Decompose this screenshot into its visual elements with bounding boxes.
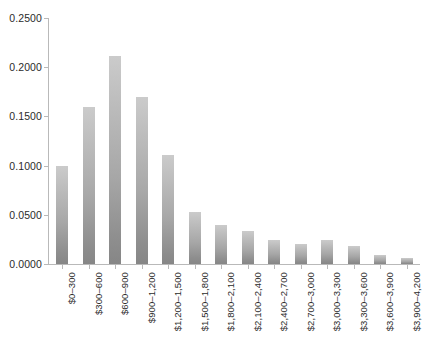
x-axis-tick-label: $3,900–4,200 — [411, 272, 422, 331]
x-axis-tick-mark — [168, 265, 169, 269]
bar-chart: 0.00000.05000.10000.15000.20000.2500 $0–… — [0, 0, 434, 340]
bar — [162, 155, 174, 264]
x-axis-tick-mark — [301, 265, 302, 269]
bar — [295, 244, 307, 264]
x-axis-tick-mark — [62, 265, 63, 269]
bar — [321, 240, 333, 264]
bar — [189, 212, 201, 264]
bar — [56, 166, 68, 264]
bar — [83, 107, 95, 264]
y-axis-tick-mark — [44, 264, 49, 265]
x-axis-tick-mark — [142, 265, 143, 269]
bar — [348, 246, 360, 264]
bar — [268, 240, 280, 264]
x-axis: $0–300$300–600$600–900$900–1,200$1,200–1… — [0, 264, 434, 340]
plot-area — [49, 18, 420, 264]
x-axis-tick-label: $3,600–3,900 — [384, 272, 395, 331]
x-axis-tick-mark — [354, 265, 355, 269]
x-axis-tick-mark — [89, 265, 90, 269]
x-axis-tick-mark — [115, 265, 116, 269]
x-axis-tick-label: $3,300–3,600 — [358, 272, 369, 331]
x-axis-tick-label: $600–900 — [119, 272, 130, 315]
x-axis-tick-label: $1,200–1,500 — [172, 272, 183, 331]
x-axis-tick-mark — [407, 265, 408, 269]
x-axis-tick-mark — [274, 265, 275, 269]
y-axis-tick-label: 0.0500 — [0, 210, 42, 220]
bar — [136, 97, 148, 264]
y-axis-tick-mark — [44, 18, 49, 19]
x-axis-tick-label: $900–1,200 — [146, 272, 157, 323]
x-axis-tick-label: $2,700–3,000 — [305, 272, 316, 331]
y-axis-tick-mark — [44, 116, 49, 117]
y-axis-tick-mark — [44, 166, 49, 167]
x-axis-tick-mark — [195, 265, 196, 269]
x-axis-tick-label: $2,100–2,400 — [252, 272, 263, 331]
x-axis-tick-label: $1,800–2,100 — [225, 272, 236, 331]
y-axis-tick-mark — [44, 67, 49, 68]
x-axis-tick-label: $3,000–3,300 — [331, 272, 342, 331]
bar — [374, 255, 386, 264]
x-axis-tick-label: $0–300 — [66, 272, 77, 304]
x-axis-tick-label: $300–600 — [93, 272, 104, 315]
x-axis-tick-label: $2,400–2,700 — [278, 272, 289, 331]
y-axis-tick-mark — [44, 215, 49, 216]
bar — [242, 231, 254, 264]
x-axis-tick-mark — [221, 265, 222, 269]
x-axis-tick-mark — [248, 265, 249, 269]
x-axis-tick-mark — [380, 265, 381, 269]
y-axis-tick-label: 0.1000 — [0, 161, 42, 171]
x-axis-tick-label: $1,500–1,800 — [199, 272, 210, 331]
y-axis-tick-label: 0.1500 — [0, 111, 42, 121]
bar — [215, 225, 227, 264]
y-axis-tick-label: 0.2500 — [0, 13, 42, 23]
y-axis-tick-label: 0.2000 — [0, 62, 42, 72]
bar — [109, 56, 121, 264]
x-axis-tick-mark — [327, 265, 328, 269]
